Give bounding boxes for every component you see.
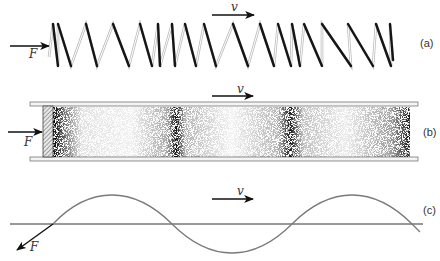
- force-arrow-c: F: [17, 224, 53, 254]
- tube-top-wall: [30, 102, 418, 106]
- panel-label-c: (c): [423, 204, 436, 216]
- panel-b: v F (b): [8, 82, 436, 161]
- piston: [43, 106, 53, 157]
- force-label-a: F: [28, 47, 38, 61]
- force-arrow-a: F: [10, 46, 49, 61]
- force-label-c: F: [29, 240, 39, 254]
- panel-label-b: (b): [423, 126, 436, 138]
- wave-diagram: v F: [0, 0, 440, 261]
- velocity-arrow-b: v: [212, 82, 253, 96]
- velocity-label-b: v: [237, 82, 244, 96]
- tube-bottom-wall: [30, 157, 418, 161]
- panel-a: v F: [10, 0, 433, 66]
- force-label-b: F: [23, 135, 33, 149]
- velocity-arrow-c: v: [212, 184, 253, 199]
- panel-label-a: (a): [420, 37, 433, 49]
- spring: [49, 24, 393, 66]
- force-arrow-b: F: [8, 132, 42, 149]
- velocity-label-a: v: [231, 0, 238, 14]
- gas-density: [53, 107, 410, 157]
- panel-c: v F (c): [10, 184, 436, 254]
- velocity-label-c: v: [237, 184, 244, 198]
- velocity-arrow-a: v: [212, 0, 254, 15]
